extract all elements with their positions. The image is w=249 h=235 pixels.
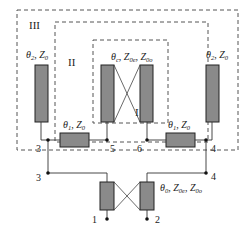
port-3-lower-label: 3 [36,172,41,183]
region-II-label: II [68,56,76,68]
left-series-label: θ1, Z0 [63,119,86,131]
inner-coupled-label: θc, Z0e, Z0o [111,51,153,63]
port-2-dot [145,217,149,221]
node-4-upper-dot [204,138,208,142]
port-1-dot [105,217,109,221]
right-series-label: θ1, Z0 [168,119,191,131]
right-series-line [166,133,195,147]
right-stub-label: θ2, Z0 [206,49,229,61]
port-3-upper-label: 3 [36,143,41,154]
left-stub-label: θ2, Z0 [26,49,49,61]
bottom-coupled-line-right [140,182,154,210]
region-III [17,10,238,150]
node-6-dot [145,138,149,142]
inner-coupled-line-right [140,65,153,122]
coupled-line-circuit-diagram: III II I θ2, Z0 θ2, Z0 θc, Z0e, Z0o θ1, … [0,0,249,235]
port-1-label: 1 [92,214,97,225]
port-2-label: 2 [155,214,160,225]
right-stub-line [206,65,219,122]
junction-dots [46,138,208,221]
region-III-box [17,10,238,52]
node-3-lower-dot [46,171,50,175]
inner-coupled-line-left [101,65,114,122]
node-3-upper-dot [46,138,50,142]
left-stub-line [35,65,48,122]
port-4-lower-label: 4 [211,171,216,182]
node-4-lower-dot [204,171,208,175]
port-6-label: 6 [137,143,142,154]
bottom-coupled-line-left [100,182,114,210]
port-4-upper-label: 4 [211,143,216,154]
node-5-dot [105,138,109,142]
port-5-label: 5 [110,143,115,154]
left-series-line [60,133,89,147]
bottom-coupled-label: θ0, Z0e, Z0o [160,182,203,194]
region-III-label: III [29,19,40,31]
region-III-boundary [17,10,114,52]
